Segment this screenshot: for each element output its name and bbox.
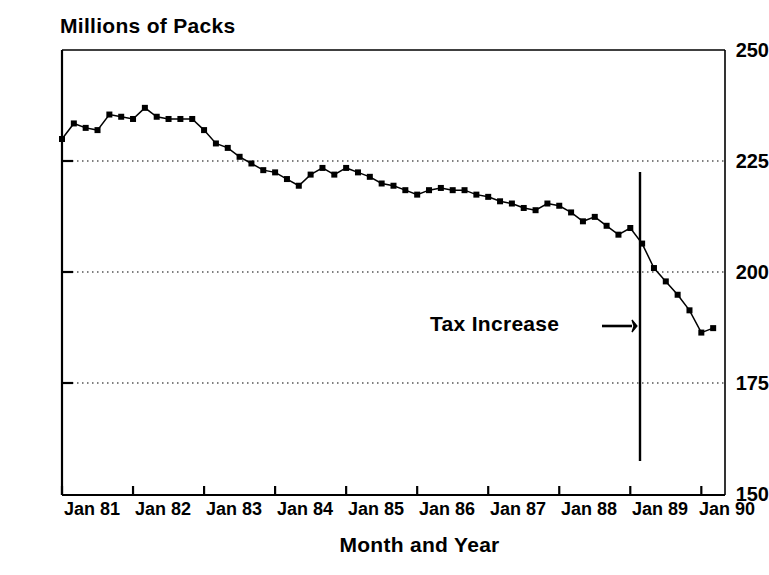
series-line-monthly-packs — [62, 108, 713, 333]
chart-figure: Millions of Packs 250 225 200 175 150 Ja… — [0, 0, 769, 575]
data-point — [710, 325, 716, 331]
data-point — [355, 169, 361, 175]
tax-increase-arrow-head — [632, 320, 637, 332]
y-axis-ticks — [62, 161, 73, 383]
data-point — [213, 140, 219, 146]
data-point — [462, 187, 468, 193]
series-markers — [59, 105, 716, 336]
data-point — [604, 223, 610, 229]
data-point — [414, 192, 420, 198]
data-point — [556, 203, 562, 209]
data-point — [473, 192, 479, 198]
data-point — [343, 165, 349, 171]
data-point — [189, 116, 195, 122]
grid-lines — [62, 161, 725, 383]
plot-canvas — [0, 0, 769, 575]
data-point — [95, 127, 101, 133]
data-point — [71, 120, 77, 126]
data-point — [379, 181, 385, 187]
data-point — [663, 278, 669, 284]
data-point — [686, 307, 692, 313]
data-point — [402, 187, 408, 193]
data-point — [675, 292, 681, 298]
data-point — [627, 225, 633, 231]
x-axis-title: Month and Year — [0, 533, 769, 557]
data-point — [615, 232, 621, 238]
data-point — [201, 127, 207, 133]
data-point — [698, 330, 704, 336]
data-point — [391, 183, 397, 189]
data-point — [308, 172, 314, 178]
data-point — [296, 183, 302, 189]
data-point — [177, 116, 183, 122]
tax-increase-marker — [602, 172, 640, 461]
data-point — [272, 169, 278, 175]
data-point — [83, 125, 89, 131]
data-point — [521, 205, 527, 211]
data-point — [142, 105, 148, 111]
data-point — [580, 218, 586, 224]
data-point — [237, 154, 243, 160]
data-point — [260, 167, 266, 173]
data-point — [426, 187, 432, 193]
data-point — [485, 194, 491, 200]
data-point — [450, 187, 456, 193]
data-point — [331, 172, 337, 178]
data-point — [106, 112, 112, 118]
data-point — [592, 214, 598, 220]
data-point — [166, 116, 172, 122]
data-point — [509, 201, 515, 207]
data-point — [497, 198, 503, 204]
data-point — [639, 241, 645, 247]
data-point — [130, 116, 136, 122]
data-point — [367, 174, 373, 180]
data-point — [568, 209, 574, 215]
data-point — [59, 136, 65, 142]
x-axis-ticks — [62, 486, 701, 495]
data-point — [154, 114, 160, 120]
data-point — [438, 185, 444, 191]
data-point — [651, 265, 657, 271]
data-point — [225, 145, 231, 151]
data-point — [544, 201, 550, 207]
data-point — [533, 207, 539, 213]
data-point — [118, 114, 124, 120]
data-point — [284, 176, 290, 182]
data-point — [319, 165, 325, 171]
data-point — [248, 160, 254, 166]
